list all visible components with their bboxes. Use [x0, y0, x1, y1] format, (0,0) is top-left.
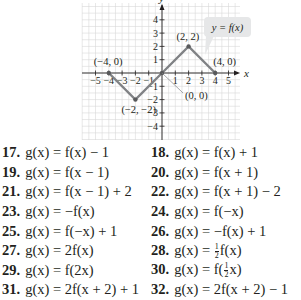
exercise-equation: g(x) = 12f(x)	[174, 242, 241, 260]
exercise-row: 19.g(x) = f(x − 1)20.g(x) = f(x + 1)	[2, 163, 300, 183]
vertex-dot	[213, 71, 217, 75]
point-label: (2, 2)	[177, 31, 200, 43]
exercise-number: 30.	[151, 261, 169, 278]
exercise-equation: g(x) = f(x) − 1	[25, 144, 109, 161]
vertex-dot	[107, 71, 111, 75]
vertex-dot	[186, 44, 190, 48]
x-tick-label: 5	[226, 75, 231, 86]
y-tick-label: 2	[153, 41, 158, 52]
exercise-row: 25.g(x) = f(−x) + 126.g(x) = −f(x) + 1	[2, 221, 300, 241]
exercise-equation: g(x) = f(−x) + 1	[25, 223, 117, 240]
function-graph: xy −5−4−3−2−1123454321−1−2−3−4 (−4, 0)(−…	[0, 0, 301, 145]
point-label: (−4, 0)	[94, 56, 123, 68]
x-tick-label: 4	[213, 75, 218, 86]
x-axis-arrow-icon	[234, 71, 240, 76]
exercise-number: 19.	[2, 164, 20, 181]
exercise-row: 27.g(x) = 2f(x)28.g(x) = 12f(x)	[2, 241, 300, 261]
exercise-item: 24.g(x) = f(−x)	[151, 203, 300, 220]
equation-suffix: f(x)	[220, 242, 242, 258]
x-tick-label: −3	[117, 75, 128, 86]
exercise-item: 20.g(x) = f(x + 1)	[151, 164, 300, 181]
exercise-number: 28.	[151, 242, 169, 259]
exercise-number: 24.	[151, 203, 169, 220]
exercise-equation: g(x) = f(x + 1)	[174, 164, 258, 181]
y-tick-label: 1	[153, 54, 158, 65]
exercise-equation: g(x) = f(−x)	[174, 203, 244, 220]
point-label: (−2, −2)	[121, 104, 156, 116]
exercise-number: 32.	[151, 281, 169, 298]
exercise-number: 21.	[2, 183, 20, 200]
exercise-item: 30.g(x) = f(12x)	[151, 261, 300, 279]
y-axis-label: y	[158, 0, 164, 4]
function-callout: y = f(x)	[204, 17, 251, 55]
exercise-number: 23.	[2, 203, 20, 220]
point-label: (4, 0)	[213, 56, 236, 68]
exercise-item: 32.g(x) = 2f(x + 2) − 1	[151, 281, 300, 298]
exercise-row: 29.g(x) = f(2x)30.g(x) = f(12x)	[2, 261, 300, 281]
equation-prefix: g(x) =	[174, 242, 214, 258]
exercise-equation: g(x) = f(12x)	[174, 261, 241, 279]
exercise-equation: g(x) = −f(x) + 1	[174, 223, 266, 240]
exercise-number: 27.	[2, 242, 20, 259]
exercise-equation: g(x) = 2f(x)	[25, 242, 94, 259]
exercise-item: 22.g(x) = f(x + 1) − 2	[151, 183, 300, 200]
fraction: 12	[224, 262, 228, 279]
exercise-item: 18.g(x) = f(x) + 1	[151, 144, 300, 161]
exercise-item: 19.g(x) = f(x − 1)	[2, 164, 151, 181]
y-axis-arrow-icon	[160, 4, 165, 10]
exercise-row: 21.g(x) = f(x − 1) + 222.g(x) = f(x + 1)…	[2, 182, 300, 202]
exercise-item: 31.g(x) = 2f(x + 2) + 1	[2, 281, 151, 298]
vertex-dot	[133, 97, 137, 101]
y-tick-label: −4	[147, 121, 158, 132]
x-tick-label: 3	[199, 75, 204, 86]
exercise-number: 18.	[151, 144, 169, 161]
callout-label: y = f(x)	[211, 22, 244, 34]
x-axis-label: x	[243, 67, 249, 79]
x-tick-label: 2	[186, 75, 191, 86]
x-tick-label: −2	[130, 75, 141, 86]
exercise-row: 17.g(x) = f(x) − 118.g(x) = f(x) + 1	[2, 143, 300, 163]
exercise-equation: g(x) = 2f(x + 2) + 1	[25, 281, 139, 298]
exercise-equation: g(x) = f(x − 1)	[25, 164, 109, 181]
exercise-equation: g(x) = f(x − 1) + 2	[25, 183, 132, 200]
exercise-row: 23.g(x) = −f(x)24.g(x) = f(−x)	[2, 202, 300, 222]
x-tick-label: −5	[90, 75, 101, 86]
exercise-item: 17.g(x) = f(x) − 1	[2, 144, 151, 161]
exercise-number: 26.	[151, 223, 169, 240]
equation-prefix: g(x) = f(	[174, 261, 223, 277]
exercise-number: 25.	[2, 223, 20, 240]
exercise-list: 17.g(x) = f(x) − 118.g(x) = f(x) + 119.g…	[2, 143, 300, 300]
y-tick-label: 4	[153, 14, 158, 25]
exercise-equation: g(x) = f(x) + 1	[174, 144, 258, 161]
exercise-equation: g(x) = 2f(x + 2) − 1	[174, 281, 288, 298]
callout-pointer	[205, 36, 214, 55]
exercise-number: 17.	[2, 144, 20, 161]
exercise-number: 29.	[2, 262, 20, 279]
exercise-item: 27.g(x) = 2f(x)	[2, 242, 151, 259]
exercise-item: 26.g(x) = −f(x) + 1	[151, 223, 300, 240]
point-label: (0, 0)	[185, 90, 208, 102]
exercise-equation: g(x) = f(2x)	[25, 262, 94, 279]
exercise-row: 31.g(x) = 2f(x + 2) + 132.g(x) = 2f(x + …	[2, 280, 300, 300]
fraction: 12	[215, 243, 219, 260]
exercise-item: 29.g(x) = f(2x)	[2, 262, 151, 279]
equation-suffix: x)	[229, 261, 241, 277]
exercise-item: 25.g(x) = f(−x) + 1	[2, 223, 151, 240]
exercise-number: 20.	[151, 164, 169, 181]
exercise-number: 22.	[151, 183, 169, 200]
exercise-item: 21.g(x) = f(x − 1) + 2	[2, 183, 151, 200]
exercise-equation: g(x) = −f(x)	[25, 203, 95, 220]
y-tick-label: 3	[153, 28, 158, 39]
exercise-equation: g(x) = f(x + 1) − 2	[174, 183, 281, 200]
exercise-item: 28.g(x) = 12f(x)	[151, 242, 300, 260]
exercise-item: 23.g(x) = −f(x)	[2, 203, 151, 220]
exercise-number: 31.	[2, 281, 20, 298]
